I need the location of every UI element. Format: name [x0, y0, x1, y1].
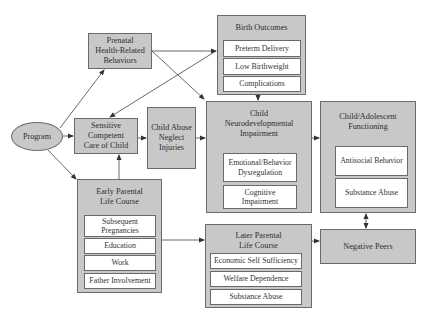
child-abuse-box: Child Abuse Neglect Injuries [147, 107, 196, 169]
prenatal-title-line: Behaviors [95, 56, 145, 66]
child-abuse-title-line: Neglect [151, 133, 192, 143]
program-node: Program [11, 122, 63, 151]
early-parental-item: Work [84, 255, 156, 271]
child-abuse-title-line: Injuries [151, 143, 192, 153]
child-adolescent-item: Substance Abuse [335, 178, 408, 208]
child-adolescent-item: Antisocial Behavior [335, 146, 408, 176]
later-parental-item: Economic Self Sufficiency [210, 253, 302, 269]
early-parental-item: Education [84, 238, 156, 254]
later-parental-box: Later Parental Life Course Economic Self… [205, 224, 312, 308]
neuro-item: Emotional/Behavior Dysregulation [223, 153, 297, 182]
birth-outcome-item: Low Birthweight [223, 58, 301, 75]
child-adolescent-title-line: Child/Adolescent [321, 112, 415, 122]
sensitive-title-line: Care of Child [84, 141, 129, 151]
birth-outcomes-title: Birth Outcomes [218, 23, 305, 33]
neuro-item: Cognitive Impairment [223, 185, 297, 209]
early-parental-item: Subsequent Pregnancies [84, 215, 156, 237]
sensitive-title-line: Sensitive [84, 121, 129, 131]
child-adolescent-box: Child/Adolescent Functioning Antisocial … [320, 101, 416, 213]
birth-outcomes-box: Birth Outcomes Preterm Delivery Low Birt… [217, 15, 306, 95]
program-label: Program [23, 132, 51, 141]
birth-outcome-item: Complications [223, 76, 301, 92]
prenatal-title-line: Prenatal [95, 36, 145, 46]
early-parental-title-line: Early Parental [78, 187, 161, 197]
early-parental-title-line: Life Course [78, 197, 161, 207]
prenatal-behaviors-box: Prenatal Health-Related Behaviors [88, 33, 152, 69]
child-adolescent-title-line: Functioning [321, 122, 415, 132]
early-parental-item: Father Involvement [84, 273, 156, 289]
neuro-title-line: Neurodevelopmental [207, 119, 311, 129]
prenatal-title-line: Health-Related [95, 46, 145, 56]
negative-peers-box: Negative Peers [320, 229, 416, 264]
birth-outcome-item: Preterm Delivery [223, 40, 301, 57]
negative-peers-label: Negative Peers [321, 230, 415, 263]
later-parental-item: Substance Abuse [210, 289, 302, 305]
sensitive-title-line: Competent [84, 131, 129, 141]
later-parental-item: Welfare Dependence [210, 271, 302, 287]
early-parental-box: Early Parental Life Course Subsequent Pr… [77, 179, 162, 293]
later-parental-title-line: Life Course [206, 241, 311, 251]
neurodevelopmental-box: Child Neurodevelopmental Impairment Emot… [206, 101, 312, 213]
later-parental-title-line: Later Parental [206, 231, 311, 241]
sensitive-care-box: Sensitive Competent Care of Child [74, 118, 138, 154]
neuro-title-line: Child [207, 109, 311, 119]
child-abuse-title-line: Child Abuse [151, 123, 192, 133]
neuro-title-line: Impairment [207, 129, 311, 139]
